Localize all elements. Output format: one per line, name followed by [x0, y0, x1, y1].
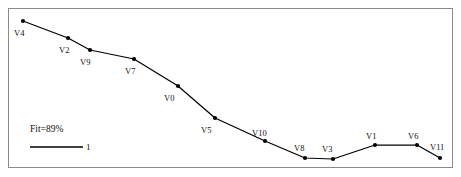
data-point-marker: [303, 156, 307, 160]
data-point-marker: [213, 116, 217, 120]
data-point-marker: [132, 57, 136, 61]
chart-figure: V4V2V9V7V0V5V10V8V3V1V6V11 Fit=89% 1: [0, 0, 461, 177]
legend-series-label: 1: [86, 142, 91, 152]
data-point-label: V10: [252, 128, 267, 138]
data-point-label: V11: [430, 142, 444, 152]
data-point-marker: [176, 84, 180, 88]
data-point-marker: [66, 36, 70, 40]
series-line: [23, 21, 440, 159]
data-point-marker: [263, 139, 267, 143]
data-point-marker: [331, 157, 335, 161]
data-point-label: V1: [366, 131, 376, 141]
data-point-marker: [88, 48, 92, 52]
fit-percentage-label: Fit=89%: [30, 124, 63, 134]
data-point-marker: [21, 19, 25, 23]
annotation-group: Fit=89% 1: [30, 124, 91, 152]
data-point-label: V8: [294, 143, 304, 153]
data-point-label: V5: [201, 125, 211, 135]
data-point-marker: [373, 143, 377, 147]
data-point-label: V3: [322, 144, 332, 154]
marker-group: [21, 19, 442, 161]
point-label-group: V4V2V9V7V0V5V10V8V3V1V6V11: [14, 28, 444, 154]
data-point-label: V0: [164, 93, 174, 103]
data-point-label: V6: [408, 131, 418, 141]
data-point-marker: [438, 156, 442, 160]
line-chart: V4V2V9V7V0V5V10V8V3V1V6V11 Fit=89% 1: [0, 0, 461, 177]
data-point-label: V2: [59, 45, 69, 55]
series-group: [23, 21, 440, 159]
data-point-label: V9: [80, 57, 90, 67]
data-point-label: V4: [14, 28, 25, 38]
data-point-marker: [415, 143, 419, 147]
data-point-label: V7: [125, 66, 135, 76]
